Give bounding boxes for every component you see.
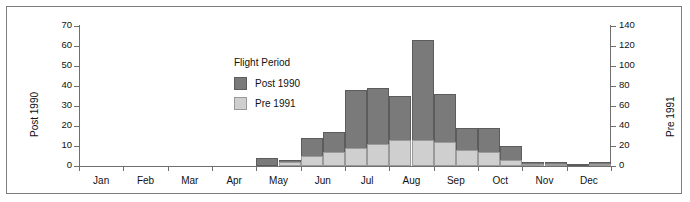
y-tick-label-left: 70 — [32, 21, 72, 29]
x-tick-label: Feb — [137, 175, 154, 186]
x-tick-label: May — [269, 175, 288, 186]
legend-label-pre-1991: Pre 1991 — [255, 98, 296, 109]
bar-pre-1991 — [345, 148, 367, 166]
y-tick-label-left: 30 — [32, 101, 72, 109]
x-tick — [256, 166, 257, 171]
bar-pre-1991 — [545, 164, 567, 166]
y-tick-right — [611, 146, 616, 147]
y-tick-left — [74, 126, 79, 127]
y-tick-right — [611, 106, 616, 107]
x-tick-label: Aug — [403, 175, 421, 186]
x-tick — [567, 166, 568, 171]
legend-item-post-1990: Post 1990 — [234, 77, 300, 90]
y-tick-left — [74, 146, 79, 147]
legend: Flight Period Post 1990 Pre 1991 — [234, 57, 300, 117]
bar-pre-1991 — [478, 152, 500, 166]
y-axis-left-title: Post 1990 — [29, 92, 40, 137]
bar-pre-1991 — [434, 142, 456, 166]
y-tick-label-right: 140 — [619, 21, 659, 29]
x-tick — [611, 166, 612, 171]
x-tick-label: Apr — [226, 175, 242, 186]
x-tick-label: Oct — [492, 175, 508, 186]
bar-pre-1991 — [456, 150, 478, 166]
x-tick-label: Jul — [361, 175, 374, 186]
x-tick — [123, 166, 124, 171]
bar-pre-1991 — [500, 160, 522, 166]
bar-pre-1991 — [323, 152, 345, 166]
x-tick-label: Dec — [580, 175, 598, 186]
y-tick-label-left: 10 — [32, 141, 72, 149]
bar-pre-1991 — [589, 164, 611, 166]
y-tick-label-left: 0 — [32, 161, 72, 169]
y-tick-left — [74, 46, 79, 47]
legend-swatch-post-1990-icon — [234, 77, 247, 90]
legend-swatch-pre-1991-icon — [234, 97, 247, 110]
x-tick — [345, 166, 346, 171]
x-tick-label: Sep — [447, 175, 465, 186]
y-tick-label-right: 120 — [619, 41, 659, 49]
x-tick — [434, 166, 435, 171]
y-tick-right — [611, 126, 616, 127]
y-tick-right — [611, 86, 616, 87]
y-tick-label-right: 0 — [619, 161, 659, 169]
legend-title: Flight Period — [234, 57, 300, 68]
x-tick-label: Nov — [536, 175, 554, 186]
chart-frame: Post 1990 Pre 1991 010203040506070 02040… — [6, 6, 682, 194]
plot-inner: 010203040506070 020406080100120140 JanFe… — [79, 25, 611, 167]
y-tick-right — [611, 46, 616, 47]
bar-pre-1991 — [367, 144, 389, 166]
y-tick-label-left: 40 — [32, 81, 72, 89]
y-tick-right — [611, 66, 616, 67]
y-tick-left — [74, 26, 79, 27]
x-tick-label: Jan — [93, 175, 109, 186]
legend-item-pre-1991: Pre 1991 — [234, 97, 300, 110]
legend-label-post-1990: Post 1990 — [255, 78, 300, 89]
y-tick-left — [74, 106, 79, 107]
y-tick-label-left: 20 — [32, 121, 72, 129]
x-tick — [301, 166, 302, 171]
x-tick-label: Mar — [181, 175, 198, 186]
plot-area: 010203040506070 020406080100120140 JanFe… — [79, 25, 611, 167]
bar-pre-1991 — [389, 140, 411, 166]
y-tick-label-right: 100 — [619, 61, 659, 69]
x-tick — [168, 166, 169, 171]
bar-pre-1991 — [412, 140, 434, 166]
y-axis-right-title: Pre 1991 — [665, 96, 676, 137]
bar-post-1990 — [256, 158, 278, 166]
x-tick — [522, 166, 523, 171]
x-tick — [212, 166, 213, 171]
y-axis-left-line — [79, 25, 80, 167]
y-tick-label-right: 60 — [619, 101, 659, 109]
bar-pre-1991 — [279, 162, 301, 166]
y-tick-label-left: 60 — [32, 41, 72, 49]
x-tick-label: Jun — [315, 175, 331, 186]
x-tick — [389, 166, 390, 171]
x-tick — [478, 166, 479, 171]
bar-pre-1991 — [522, 164, 544, 166]
x-tick — [79, 166, 80, 171]
y-tick-left — [74, 66, 79, 67]
y-tick-label-left: 50 — [32, 61, 72, 69]
y-tick-label-right: 20 — [619, 141, 659, 149]
y-tick-right — [611, 26, 616, 27]
y-tick-left — [74, 86, 79, 87]
bar-pre-1991 — [301, 156, 323, 166]
y-tick-label-right: 40 — [619, 121, 659, 129]
bar-post-1990 — [567, 164, 589, 166]
y-tick-label-right: 80 — [619, 81, 659, 89]
